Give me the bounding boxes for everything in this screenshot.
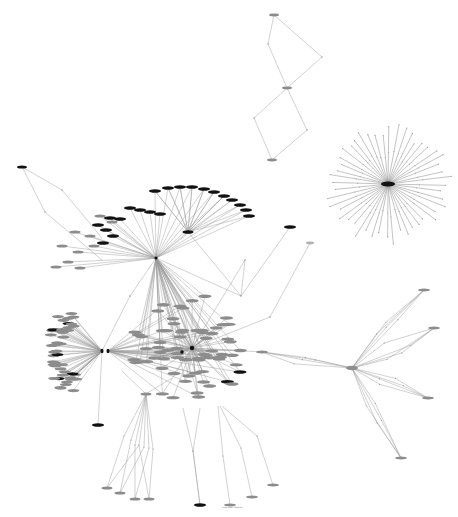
central-cluster-node[interactable]	[179, 380, 192, 383]
right-star-leaf[interactable]	[428, 327, 440, 330]
graph-node[interactable]	[306, 242, 314, 245]
central-cluster-node[interactable]	[152, 346, 165, 349]
right-star-leaf[interactable]	[422, 397, 434, 400]
bottom-leaf-node[interactable]	[130, 497, 141, 500]
left-cluster-node[interactable]	[51, 349, 63, 352]
left-cluster-node[interactable]	[48, 377, 60, 380]
central-cluster-node[interactable]	[230, 363, 243, 366]
central-cluster-node[interactable]	[186, 299, 199, 302]
central-cluster-node[interactable]	[151, 309, 164, 312]
graph-node[interactable]	[92, 423, 104, 427]
left-cluster-node[interactable]	[45, 333, 57, 336]
right-star-leaf[interactable]	[395, 457, 407, 460]
right-star-leaf[interactable]	[256, 351, 268, 354]
fan-node[interactable]	[95, 215, 106, 218]
central-cluster-node[interactable]	[191, 391, 204, 394]
fan-hub-node[interactable]	[183, 230, 194, 234]
left-cluster-node[interactable]	[52, 315, 64, 318]
fan-node[interactable]	[226, 198, 238, 202]
fan-node[interactable]	[107, 221, 118, 224]
left-cluster-node[interactable]	[55, 342, 67, 345]
star-hub-node[interactable]	[381, 181, 395, 186]
central-cluster-node[interactable]	[167, 317, 180, 320]
central-hub-node[interactable]	[180, 350, 184, 354]
fan-node[interactable]	[89, 245, 100, 248]
left-cluster-node[interactable]	[68, 389, 80, 392]
central-cluster-node[interactable]	[157, 303, 170, 306]
bottom-leaf-node[interactable]	[144, 497, 155, 500]
left-cluster-node[interactable]	[62, 329, 74, 332]
graph-node[interactable]	[194, 503, 206, 507]
chain-node[interactable]	[267, 159, 277, 162]
network-graph-svg[interactable]: node label (illegible)	[0, 0, 458, 517]
bottom-leaf-node[interactable]	[115, 491, 126, 494]
fan-node[interactable]	[92, 223, 104, 227]
fan-node[interactable]	[63, 261, 74, 264]
central-cluster-node[interactable]	[221, 337, 234, 340]
right-star-hub[interactable]	[346, 366, 358, 370]
central-cluster-node[interactable]	[153, 341, 166, 344]
fan-node[interactable]	[73, 251, 84, 254]
central-cluster-node[interactable]	[203, 384, 216, 387]
fan-node[interactable]	[100, 228, 112, 232]
central-cluster-node[interactable]	[205, 349, 218, 352]
fan-node[interactable]	[144, 210, 156, 214]
central-cluster-node[interactable]	[127, 358, 140, 361]
fan-hub-node[interactable]	[154, 256, 157, 259]
central-cluster-node[interactable]	[176, 329, 189, 332]
central-cluster-node[interactable]	[233, 370, 246, 373]
left-cluster-node[interactable]	[60, 383, 72, 386]
central-cluster-node[interactable]	[210, 326, 223, 329]
fan-node[interactable]	[234, 203, 246, 207]
left-cluster-node[interactable]	[57, 374, 69, 377]
central-cluster-node[interactable]	[203, 356, 216, 359]
left-cluster-node[interactable]	[47, 360, 59, 363]
left-hub-node[interactable]	[101, 349, 104, 353]
central-cluster-node[interactable]	[161, 349, 174, 352]
central-cluster-node[interactable]	[192, 395, 205, 398]
fan-node[interactable]	[134, 208, 146, 212]
fan-node[interactable]	[162, 186, 174, 190]
central-cluster-node[interactable]	[156, 392, 169, 395]
fan-node[interactable]	[70, 231, 81, 234]
central-cluster-node[interactable]	[140, 360, 153, 363]
central-cluster-node[interactable]	[234, 349, 247, 352]
left-hub-node[interactable]	[107, 349, 110, 353]
central-cluster-node[interactable]	[179, 358, 192, 361]
graph-node[interactable]	[267, 484, 279, 487]
fan-node[interactable]	[186, 185, 198, 189]
right-star-leaf[interactable]	[418, 289, 430, 292]
graph-node[interactable]	[284, 225, 296, 229]
central-cluster-node[interactable]	[217, 323, 230, 326]
central-cluster-node[interactable]	[192, 357, 205, 360]
fan-node[interactable]	[174, 185, 186, 189]
network-graph-canvas[interactable]: node label (illegible)	[0, 0, 458, 517]
central-cluster-node[interactable]	[200, 336, 213, 339]
outlier-node[interactable]	[17, 165, 27, 168]
left-cluster-node[interactable]	[68, 325, 80, 328]
fan-node[interactable]	[107, 234, 119, 238]
fan-node[interactable]	[114, 217, 126, 221]
central-cluster-node[interactable]	[128, 330, 141, 333]
central-cluster-node[interactable]	[156, 366, 169, 369]
fan-node[interactable]	[198, 187, 210, 191]
central-cluster-node[interactable]	[226, 382, 239, 385]
fan-node[interactable]	[243, 214, 255, 218]
central-hub-node[interactable]	[190, 346, 194, 350]
fan-node[interactable]	[240, 208, 252, 212]
central-cluster-node[interactable]	[196, 329, 209, 332]
fan-node[interactable]	[75, 267, 86, 270]
left-cluster-node[interactable]	[57, 336, 69, 339]
graph-node[interactable]	[246, 496, 258, 499]
chain-node[interactable]	[282, 87, 292, 90]
left-cluster-node[interactable]	[59, 370, 71, 373]
left-cluster-node[interactable]	[55, 367, 67, 370]
fan-node[interactable]	[51, 266, 62, 269]
central-cluster-node[interactable]	[168, 322, 181, 325]
central-cluster-node[interactable]	[197, 380, 210, 383]
central-cluster-node[interactable]	[140, 347, 153, 350]
left-cluster-node[interactable]	[68, 315, 80, 318]
fan-node[interactable]	[154, 212, 166, 216]
central-cluster-node[interactable]	[216, 353, 229, 356]
fan-node[interactable]	[85, 235, 96, 238]
